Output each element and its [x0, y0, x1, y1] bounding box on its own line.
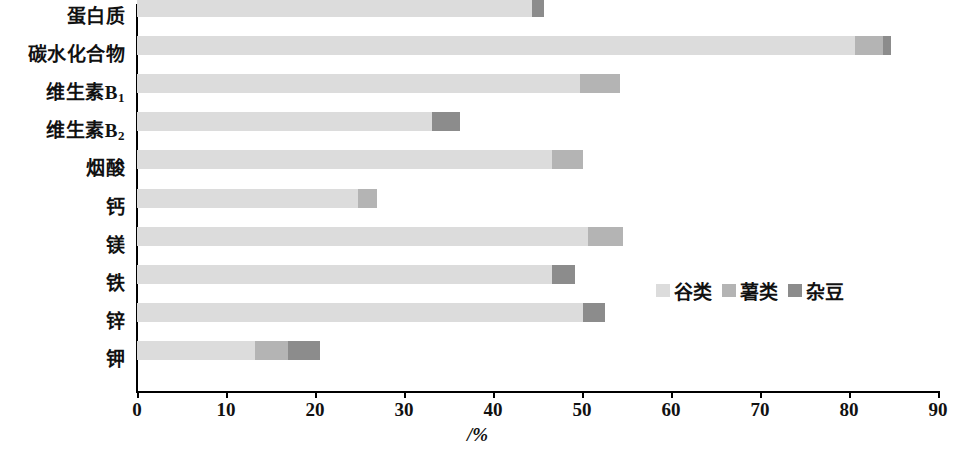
bar-row	[137, 74, 620, 93]
x-axis-tick	[938, 391, 940, 398]
bar-segment	[432, 112, 460, 131]
category-label: 维生素B2	[46, 112, 125, 150]
bar-row	[137, 189, 377, 208]
category-label: 烟酸	[86, 150, 125, 188]
bar-segment	[137, 36, 855, 55]
legend-swatch	[656, 284, 670, 297]
x-axis-tick	[582, 391, 584, 398]
category-label: 镁	[106, 227, 126, 265]
x-axis-tick-label: 70	[751, 399, 770, 421]
bar-segment	[137, 227, 588, 246]
legend-item: 薯类	[722, 277, 778, 304]
category-label: 钙	[106, 189, 126, 227]
legend-label: 薯类	[740, 277, 778, 304]
category-label: 铁	[106, 265, 126, 303]
x-axis-title: /%	[0, 424, 955, 446]
x-axis-tick-label: 90	[929, 399, 948, 421]
legend-item: 谷类	[656, 277, 712, 304]
x-axis-tick	[137, 391, 139, 398]
bar-segment	[137, 112, 432, 131]
bar-segment	[588, 227, 623, 246]
category-axis-labels: 蛋白质碳水化合物维生素B1维生素B2烟酸钙镁铁锌钾	[0, 0, 131, 388]
bar-segment	[883, 36, 891, 55]
bar-row	[137, 303, 605, 322]
bar-row	[137, 227, 623, 246]
x-axis-tick	[493, 391, 495, 398]
x-axis-tick-label: 10	[217, 399, 236, 421]
x-axis-tick-label: 60	[662, 399, 681, 421]
category-label: 维生素B1	[46, 74, 125, 112]
x-axis-tick	[849, 391, 851, 398]
x-axis-tick	[404, 391, 406, 398]
x-axis-tick-label: 0	[132, 399, 142, 421]
bar-segment	[855, 36, 883, 55]
legend-item: 杂豆	[788, 277, 844, 304]
x-axis-tick-label: 20	[306, 399, 325, 421]
chart-container: 蛋白质碳水化合物维生素B1维生素B2烟酸钙镁铁锌钾 /% 谷类薯类杂豆 0102…	[0, 0, 955, 455]
legend-swatch	[722, 284, 736, 297]
bar-segment	[552, 265, 575, 284]
legend-label: 谷类	[674, 277, 712, 304]
bar-segment	[137, 150, 552, 169]
x-axis-tick	[671, 391, 673, 398]
bar-row	[137, 150, 583, 169]
legend-label: 杂豆	[806, 277, 844, 304]
x-axis-tick	[760, 391, 762, 398]
x-axis-tick-label: 50	[573, 399, 592, 421]
bar-row	[137, 341, 320, 360]
bar-segment	[137, 303, 583, 322]
bar-row	[137, 265, 575, 284]
x-axis-tick-label: 30	[395, 399, 414, 421]
category-label: 钾	[106, 341, 126, 379]
bar-segment	[580, 74, 620, 93]
bar-segment	[532, 0, 544, 17]
bar-segment	[288, 341, 320, 360]
x-axis-tick	[226, 391, 228, 398]
bar-segment	[255, 341, 288, 360]
legend-swatch	[788, 284, 802, 297]
bar-segment	[137, 189, 358, 208]
bar-segment	[583, 303, 605, 322]
bar-row	[137, 0, 544, 17]
bar-row	[137, 112, 460, 131]
bar-segment	[358, 189, 378, 208]
x-axis-tick-label: 40	[484, 399, 503, 421]
x-axis-tick-label: 80	[840, 399, 859, 421]
x-axis-tick	[315, 391, 317, 398]
category-label: 蛋白质	[67, 0, 126, 36]
bar-segment	[552, 150, 583, 169]
bar-segment	[137, 265, 552, 284]
category-label: 碳水化合物	[28, 36, 126, 74]
category-label: 锌	[106, 303, 126, 341]
chart-legend: 谷类薯类杂豆	[656, 277, 844, 304]
bar-segment	[137, 0, 532, 17]
bar-segment	[137, 74, 580, 93]
bar-row	[137, 36, 891, 55]
x-axis-line	[136, 391, 939, 393]
bar-segment	[137, 341, 255, 360]
